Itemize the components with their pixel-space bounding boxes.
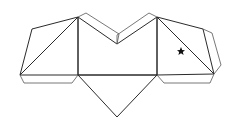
star-icon [177,47,185,55]
net-diagram [0,0,236,126]
top-left-tab [78,13,119,44]
center-face [78,17,157,75]
bottom-face [78,75,157,117]
left-inner-face [20,17,78,75]
left-bottom-tab [20,75,78,83]
right-outer-face [157,17,214,74]
